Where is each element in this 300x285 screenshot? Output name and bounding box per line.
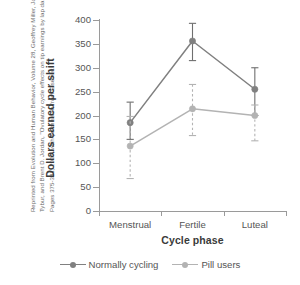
- data-point: [252, 86, 258, 92]
- figure-container: Reprinted from Evolution and Human Behav…: [0, 0, 300, 285]
- series-pill-users: [127, 84, 259, 178]
- legend-item-normally-cycling[interactable]: Normally cycling: [60, 259, 159, 270]
- legend-item-pill-users[interactable]: Pill users: [172, 259, 240, 270]
- data-point: [189, 106, 195, 112]
- data-point: [189, 38, 195, 44]
- legend-label: Normally cycling: [89, 259, 159, 270]
- data-point: [252, 112, 258, 118]
- legend-marker-icon: [172, 260, 198, 270]
- x-axis-tick-label: Fertile: [179, 219, 206, 230]
- legend-label: Pill users: [201, 259, 240, 270]
- series-normally-cycling: [127, 23, 259, 139]
- chart-legend: Normally cyclingPill users: [0, 259, 300, 270]
- data-point: [127, 143, 133, 149]
- legend-marker-icon: [60, 260, 86, 270]
- x-axis-tick-label: Luteal: [242, 219, 268, 230]
- x-axis-title: Cycle phase: [99, 234, 286, 246]
- x-axis-tick-label: Menstrual: [109, 219, 151, 230]
